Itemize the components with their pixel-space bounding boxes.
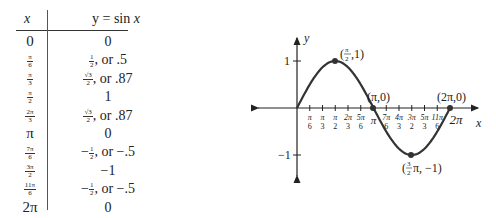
cell-x: 0 xyxy=(14,34,46,49)
svg-text:π: π xyxy=(308,113,313,122)
peak-label: ( π 2 ,1) xyxy=(340,46,364,63)
cell-y: 0 xyxy=(58,34,158,49)
trough-point xyxy=(408,152,414,158)
svg-text:3π: 3π xyxy=(407,113,417,122)
two-pi-point-label: (2π,0) xyxy=(437,90,466,104)
svg-text:3: 3 xyxy=(321,122,325,131)
cell-y: −12, or −.5 xyxy=(58,181,158,197)
table-row: π21 xyxy=(14,89,174,105)
fraction: π2 xyxy=(27,90,33,105)
svg-text:π, −1): π, −1) xyxy=(413,161,442,175)
table-row: π0 xyxy=(14,126,174,142)
table-row: 00 xyxy=(14,34,174,50)
cell-x: 7π6 xyxy=(14,144,46,160)
header-divider xyxy=(16,30,128,31)
cell-y: 0 xyxy=(58,200,158,215)
y-tick-1: 1 xyxy=(284,54,290,68)
fraction: 2π3 xyxy=(25,109,34,124)
svg-text:3: 3 xyxy=(423,122,427,131)
fraction: 7π6 xyxy=(25,146,34,161)
svg-text:π: π xyxy=(333,113,338,122)
svg-text:,1): ,1) xyxy=(351,47,364,61)
svg-text:3: 3 xyxy=(346,122,350,131)
svg-text:11π: 11π xyxy=(432,113,444,122)
table-row: π3√32, or .87 xyxy=(14,71,174,87)
svg-text:π: π xyxy=(345,46,349,54)
header-y: y = sin x xyxy=(76,8,156,30)
pi-point-label: (π,0) xyxy=(367,90,390,104)
table-row: 3π2−1 xyxy=(14,163,174,179)
table-row: 7π6−12, or −.5 xyxy=(14,144,174,160)
fraction: π6 xyxy=(27,54,33,69)
svg-text:2π: 2π xyxy=(344,113,353,122)
svg-text:(: ( xyxy=(402,161,406,175)
svg-text:2: 2 xyxy=(345,55,349,63)
pi-point xyxy=(370,105,376,111)
cell-y: −1 xyxy=(58,163,158,178)
cell-x: 2π xyxy=(14,200,46,215)
cell-y: √32, or .87 xyxy=(58,108,158,124)
fraction: √32 xyxy=(83,109,92,124)
svg-text:4π: 4π xyxy=(395,113,404,122)
svg-text:6: 6 xyxy=(359,122,363,131)
cell-y: 12, or .5 xyxy=(58,52,158,68)
svg-text:π: π xyxy=(320,113,325,122)
table-row: 11π6−12, or −.5 xyxy=(14,181,174,197)
cell-x: 3π2 xyxy=(14,163,46,179)
peak-point xyxy=(332,58,338,64)
svg-text:7π: 7π xyxy=(382,113,391,122)
y-axis-label: y xyxy=(303,31,310,45)
table-row: 2π3√32, or .87 xyxy=(14,108,174,124)
svg-text:2: 2 xyxy=(410,122,414,131)
cell-x: π3 xyxy=(14,71,46,87)
cell-y: −12, or −.5 xyxy=(58,144,158,160)
svg-text:6: 6 xyxy=(308,122,312,131)
cell-y: 0 xyxy=(58,126,158,141)
cell-x: π2 xyxy=(14,89,46,105)
cell-x: π xyxy=(14,126,46,141)
svg-text:π: π xyxy=(371,114,377,126)
fraction: √32 xyxy=(83,72,92,87)
fraction: 3π2 xyxy=(25,164,34,179)
svg-text:(: ( xyxy=(340,47,344,61)
fraction: 12 xyxy=(89,146,95,161)
fraction: 12 xyxy=(89,54,95,69)
svg-text:2π: 2π xyxy=(449,112,463,127)
cell-x: 2π3 xyxy=(14,108,46,124)
fraction: π3 xyxy=(27,72,33,87)
header-x: x xyxy=(24,8,30,30)
cell-y: √32, or .87 xyxy=(58,71,158,87)
x-axis-label: x xyxy=(475,116,482,130)
y-tick-neg1: −1 xyxy=(278,148,291,162)
cell-x: π6 xyxy=(14,52,46,68)
svg-text:2: 2 xyxy=(333,122,337,131)
svg-text:3: 3 xyxy=(397,122,401,131)
two-pi-point xyxy=(447,105,453,111)
svg-text:5π: 5π xyxy=(357,113,366,122)
table-row: π612, or .5 xyxy=(14,52,174,68)
cell-y: 1 xyxy=(58,89,158,104)
cell-x: 11π6 xyxy=(14,181,46,197)
svg-text:2: 2 xyxy=(407,169,411,177)
table-row: 2π0 xyxy=(14,200,174,216)
trough-label: ( 3 2 π, −1) xyxy=(402,160,442,177)
svg-text:5π: 5π xyxy=(420,113,429,122)
sine-graph: y x 1 −1 π6π3π22π35π6π7π64π33π25π311π62π… xyxy=(240,0,496,218)
fraction: 11π6 xyxy=(24,182,36,197)
fraction: 12 xyxy=(89,182,95,197)
svg-text:3: 3 xyxy=(407,160,411,168)
